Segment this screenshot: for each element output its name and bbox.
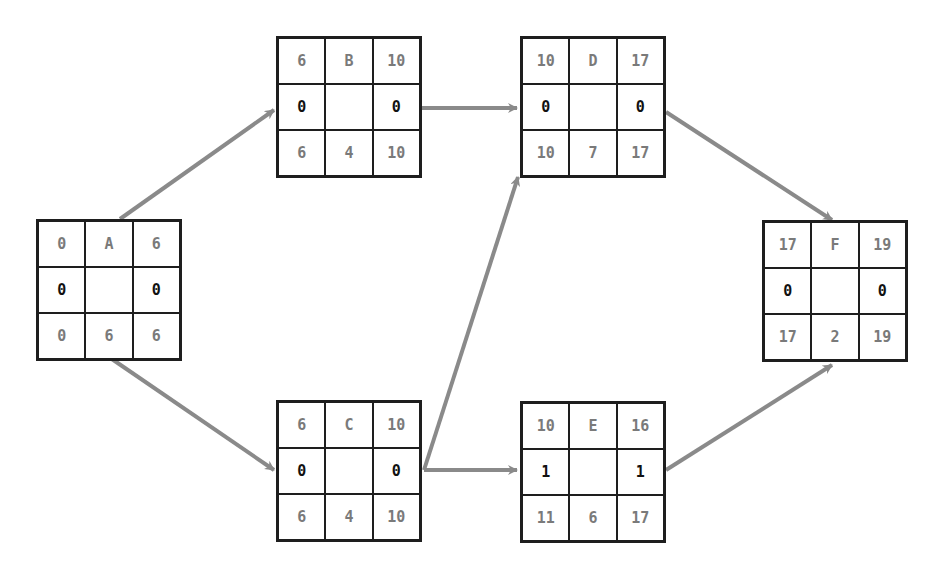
activity-name: B (325, 38, 372, 84)
slack-left: 0 (278, 84, 325, 130)
center-blank (569, 449, 616, 495)
late-start: 0 (38, 313, 85, 359)
node-e: 10 E 16 1 1 11 6 17 (520, 401, 666, 543)
node-c: 6 C 10 0 0 6 4 10 (276, 400, 422, 542)
slack-left: 0 (38, 267, 85, 313)
center-blank (569, 84, 616, 130)
slack-left: 0 (764, 268, 811, 314)
early-finish: 17 (617, 38, 664, 84)
late-start: 17 (764, 314, 811, 360)
late-start: 6 (278, 494, 325, 540)
activity-name: A (85, 221, 132, 267)
node-f: 17 F 19 0 0 17 2 19 (762, 220, 908, 362)
early-finish: 16 (617, 403, 664, 449)
early-finish: 10 (373, 402, 420, 448)
slack-right: 0 (133, 267, 180, 313)
early-finish: 10 (373, 38, 420, 84)
edge-d-f (666, 112, 832, 220)
slack-right: 0 (373, 448, 420, 494)
activity-name: E (569, 403, 616, 449)
center-blank (325, 448, 372, 494)
early-start: 6 (278, 402, 325, 448)
late-finish: 17 (617, 130, 664, 176)
slack-left: 0 (522, 84, 569, 130)
late-finish: 19 (859, 314, 906, 360)
early-start: 10 (522, 38, 569, 84)
edge-e-f (666, 365, 832, 470)
late-start: 6 (278, 130, 325, 176)
duration: 7 (569, 130, 616, 176)
edge-c-d (424, 177, 518, 470)
slack-left: 1 (522, 449, 569, 495)
node-d: 10 D 17 0 0 10 7 17 (520, 36, 666, 178)
late-finish: 10 (373, 130, 420, 176)
early-start: 6 (278, 38, 325, 84)
slack-right: 0 (859, 268, 906, 314)
duration: 4 (325, 130, 372, 176)
slack-right: 0 (617, 84, 664, 130)
duration: 4 (325, 494, 372, 540)
duration: 2 (811, 314, 858, 360)
slack-right: 1 (617, 449, 664, 495)
early-finish: 6 (133, 221, 180, 267)
late-finish: 17 (617, 495, 664, 541)
node-b: 6 B 10 0 0 6 4 10 (276, 36, 422, 178)
early-finish: 19 (859, 222, 906, 268)
late-finish: 6 (133, 313, 180, 359)
duration: 6 (85, 313, 132, 359)
duration: 6 (569, 495, 616, 541)
early-start: 17 (764, 222, 811, 268)
activity-name: D (569, 38, 616, 84)
activity-name: C (325, 402, 372, 448)
slack-right: 0 (373, 84, 420, 130)
late-start: 10 (522, 130, 569, 176)
late-start: 11 (522, 495, 569, 541)
edge-a-c (106, 355, 274, 470)
center-blank (811, 268, 858, 314)
early-start: 0 (38, 221, 85, 267)
slack-left: 0 (278, 448, 325, 494)
edge-a-b (120, 110, 274, 219)
activity-name: F (811, 222, 858, 268)
center-blank (325, 84, 372, 130)
center-blank (85, 267, 132, 313)
node-a: 0 A 6 0 0 0 6 6 (36, 219, 182, 361)
early-start: 10 (522, 403, 569, 449)
late-finish: 10 (373, 494, 420, 540)
